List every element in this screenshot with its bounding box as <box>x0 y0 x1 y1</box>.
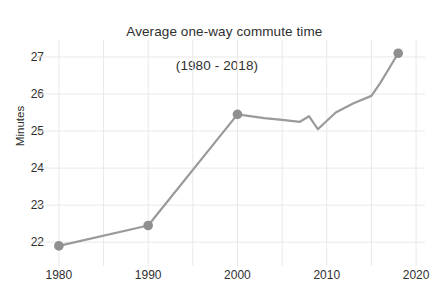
plot-area <box>0 0 434 292</box>
data-point-marker <box>233 110 243 120</box>
data-line <box>59 53 398 246</box>
data-point-marker <box>143 221 153 231</box>
commute-time-line-chart: Average one-way commute time (1980 - 201… <box>0 0 434 292</box>
data-point-marker <box>54 241 64 251</box>
data-point-marker <box>393 48 403 58</box>
